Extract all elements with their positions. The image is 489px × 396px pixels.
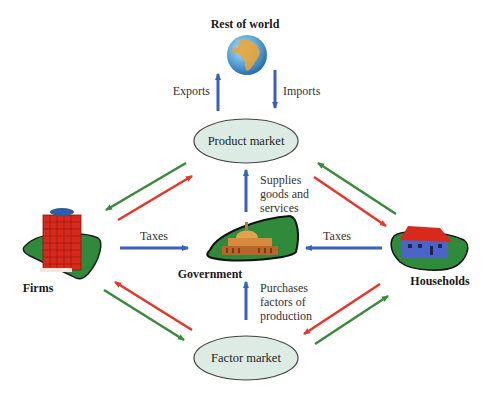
imports-label: Imports — [283, 84, 321, 98]
firms-building-icon — [23, 208, 100, 279]
taxes-firms-label: Taxes — [140, 229, 168, 243]
firms-label: Firms — [23, 281, 54, 295]
government-label: Government — [178, 267, 243, 281]
households-label: Households — [410, 274, 470, 288]
households-house-icon — [391, 226, 468, 270]
factor-market-node: Factor market — [194, 336, 298, 380]
payment-to-factor-market-arrow — [104, 290, 184, 340]
globe-icon — [227, 35, 267, 75]
factors-to-firms-arrow — [115, 282, 192, 330]
product-market-node: Product market — [194, 119, 298, 163]
exports-label: Exports — [173, 84, 211, 98]
purchases-label: Purchases factors of production — [260, 281, 312, 323]
supplies-label: Supplies goods and services — [260, 173, 312, 215]
product-market-label: Product market — [208, 134, 285, 148]
taxes-households-label: Taxes — [323, 229, 351, 243]
rest-of-world-label: Rest of world — [211, 17, 280, 31]
factor-market-label: Factor market — [211, 351, 281, 365]
government-capitol-icon — [207, 216, 298, 260]
circular-flow-diagram: Rest of world Exports Imports Product ma… — [0, 0, 489, 396]
